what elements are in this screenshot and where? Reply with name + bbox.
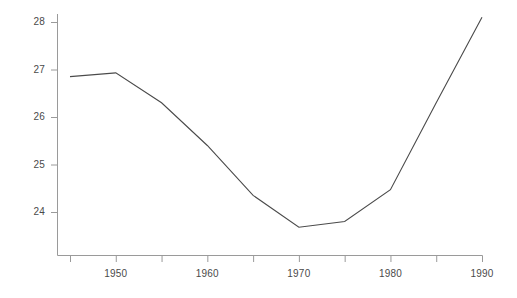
y-tick-label: 24 — [20, 206, 45, 217]
data-line-series-1 — [70, 17, 482, 227]
x-axis-ticks — [71, 256, 483, 263]
x-tick-label: 1990 — [452, 268, 512, 279]
y-tick-label: 25 — [20, 159, 45, 170]
y-tick-label: 28 — [20, 16, 45, 27]
line-chart: 2425262728 19501960197019801990 — [0, 0, 517, 298]
y-tick-label: 26 — [20, 111, 45, 122]
y-tick-label: 27 — [20, 64, 45, 75]
x-tick-label: 1960 — [177, 268, 237, 279]
y-axis-ticks — [51, 23, 58, 213]
chart-plot-area — [0, 0, 517, 298]
x-tick-label: 1980 — [360, 268, 420, 279]
x-tick-label: 1950 — [86, 268, 146, 279]
x-tick-label: 1970 — [269, 268, 329, 279]
